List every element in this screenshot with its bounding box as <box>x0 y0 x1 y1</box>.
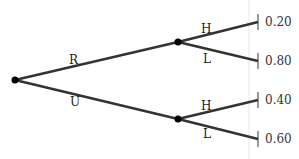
branch-label-u-l: L <box>203 128 211 140</box>
branch-r-h <box>178 22 258 42</box>
branch-u <box>15 80 178 119</box>
branch-label-r: R <box>69 54 78 66</box>
branch-u-l <box>178 119 258 139</box>
chance-node-r <box>175 39 182 46</box>
root-node <box>12 77 19 84</box>
probability-r-h: 0.20 <box>265 16 292 28</box>
branch-label-r-h: H <box>201 23 211 35</box>
tree-diagram <box>0 0 299 159</box>
branch-label-u: U <box>70 96 80 108</box>
branch-r-l <box>178 42 258 61</box>
branch-r <box>15 42 178 80</box>
probability-u-h: 0.40 <box>265 94 292 106</box>
branch-u-h <box>178 100 258 119</box>
branch-label-u-h: H <box>201 100 211 112</box>
probability-u-l: 0.60 <box>265 133 292 145</box>
probability-r-l: 0.80 <box>265 55 292 67</box>
branch-label-r-l: L <box>203 53 211 65</box>
chance-node-u <box>175 116 182 123</box>
